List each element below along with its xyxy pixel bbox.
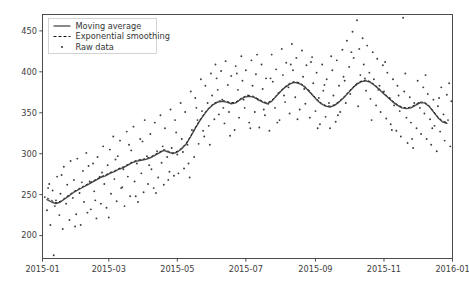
raw-data-point xyxy=(109,149,111,151)
raw-data-point xyxy=(53,254,55,256)
raw-data-point xyxy=(276,122,278,124)
raw-data-point xyxy=(350,51,352,53)
raw-data-point xyxy=(434,125,436,127)
raw-data-point xyxy=(375,104,377,106)
raw-data-point xyxy=(406,117,408,119)
raw-data-point xyxy=(183,167,185,169)
raw-data-point xyxy=(345,102,347,104)
raw-data-point xyxy=(69,219,71,221)
raw-data-point xyxy=(348,66,350,68)
raw-data-point xyxy=(290,63,292,65)
raw-data-point xyxy=(222,107,224,109)
raw-data-point xyxy=(61,174,63,176)
raw-data-point xyxy=(321,63,323,65)
raw-data-point xyxy=(143,191,145,193)
legend-entry-label: Raw data xyxy=(76,42,114,52)
x-tick-label: 2015-01 xyxy=(25,264,59,274)
raw-data-point xyxy=(47,187,49,189)
raw-data-point xyxy=(295,57,297,59)
raw-data-point xyxy=(162,145,164,147)
time-series-chart: 200250300350400450 2015-012015-032015-05… xyxy=(0,0,469,294)
raw-data-point xyxy=(447,119,449,121)
raw-data-point xyxy=(122,168,124,170)
raw-data-point xyxy=(121,186,123,188)
raw-data-point xyxy=(263,109,265,111)
raw-data-point xyxy=(432,99,434,101)
raw-data-point xyxy=(385,118,387,120)
raw-data-point xyxy=(337,114,339,116)
raw-data-point xyxy=(101,172,103,174)
raw-data-point xyxy=(44,196,46,198)
raw-data-point xyxy=(427,93,429,95)
raw-data-point xyxy=(207,102,209,104)
raw-data-point xyxy=(312,82,314,84)
raw-data-point xyxy=(215,63,217,65)
raw-data-point xyxy=(335,121,337,123)
raw-data-point xyxy=(423,113,425,115)
raw-data-point xyxy=(318,97,320,99)
raw-data-point xyxy=(274,107,276,109)
raw-data-point xyxy=(279,119,281,121)
raw-data-point xyxy=(100,203,102,205)
raw-data-point xyxy=(436,150,438,152)
raw-data-point xyxy=(443,113,445,115)
raw-data-point xyxy=(250,59,252,61)
raw-data-point xyxy=(228,111,230,113)
raw-data-point xyxy=(148,164,150,166)
raw-data-point xyxy=(372,51,374,53)
raw-data-point xyxy=(116,200,118,202)
raw-data-point xyxy=(176,154,178,156)
raw-data-point xyxy=(107,164,109,166)
raw-data-point xyxy=(110,193,112,195)
raw-data-point xyxy=(440,86,442,88)
raw-data-point xyxy=(282,74,284,76)
raw-data-point xyxy=(294,96,296,98)
raw-data-point xyxy=(255,73,257,75)
raw-data-point xyxy=(357,105,359,107)
raw-data-point xyxy=(180,102,182,104)
raw-data-point xyxy=(265,77,267,79)
legend-sample-dot-marker xyxy=(61,46,63,48)
raw-data-point xyxy=(254,111,256,113)
raw-data-point xyxy=(81,181,83,183)
raw-data-point xyxy=(198,143,200,145)
raw-data-point xyxy=(60,193,62,195)
raw-data-point xyxy=(80,224,82,226)
raw-data-point xyxy=(153,187,155,189)
raw-data-point xyxy=(224,122,226,124)
raw-data-point xyxy=(73,179,75,181)
raw-data-point xyxy=(262,88,264,90)
raw-data-point xyxy=(216,77,218,79)
raw-data-point xyxy=(211,95,213,97)
raw-data-point xyxy=(311,56,313,58)
raw-data-point xyxy=(46,209,48,211)
x-tick-label: 2015-07 xyxy=(229,264,263,274)
raw-data-point xyxy=(322,90,324,92)
raw-data-point xyxy=(112,136,114,138)
raw-data-point xyxy=(448,82,450,84)
raw-data-point xyxy=(429,118,431,120)
raw-data-point xyxy=(113,178,115,180)
raw-data-point xyxy=(90,208,92,210)
raw-data-point xyxy=(422,86,424,88)
raw-data-point xyxy=(338,85,340,87)
raw-data-point xyxy=(416,127,418,129)
raw-data-point xyxy=(438,97,440,99)
raw-data-point xyxy=(229,135,231,137)
raw-data-point xyxy=(404,73,406,75)
raw-data-point xyxy=(210,73,212,75)
raw-data-point xyxy=(95,217,97,219)
raw-data-point xyxy=(126,131,128,133)
raw-data-point xyxy=(170,109,172,111)
raw-data-point xyxy=(395,130,397,132)
raw-data-point xyxy=(393,104,395,106)
raw-data-point xyxy=(356,19,358,21)
raw-data-point xyxy=(450,100,452,102)
raw-data-point xyxy=(444,140,446,142)
raw-data-point xyxy=(191,129,193,131)
raw-data-point xyxy=(182,151,184,153)
raw-data-point xyxy=(79,192,81,194)
raw-data-point xyxy=(193,156,195,158)
raw-data-point xyxy=(365,90,367,92)
raw-data-point xyxy=(264,114,266,116)
